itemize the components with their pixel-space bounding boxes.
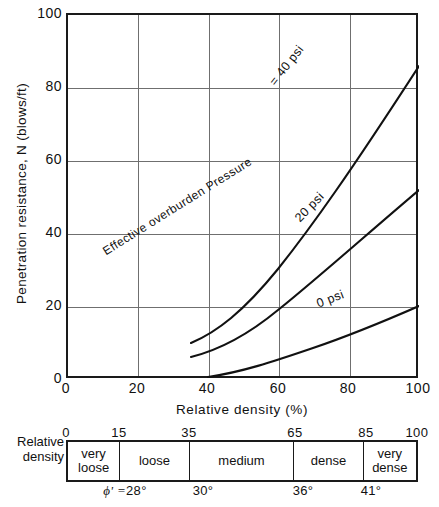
- y-axis-title: Penetration resistance, N (blows/ft): [14, 19, 29, 369]
- scale-tick-15: 15: [96, 425, 142, 440]
- density-cell-very-dense-line2: dense: [372, 461, 407, 475]
- x-axis-ticks: 0 20 40 60 80 100: [0, 381, 439, 403]
- phi-value-36: 36°: [268, 483, 338, 498]
- x-tick-0: 0: [36, 381, 96, 395]
- scale-tick-35: 35: [166, 425, 212, 440]
- density-classification-block: Relative density 0 15 35 65 85 100 very …: [0, 425, 439, 497]
- density-cell-very-loose: very loose: [68, 442, 120, 480]
- density-cell-loose-label: loose: [139, 454, 170, 468]
- density-cell-very-dense-line1: very: [372, 447, 407, 461]
- x-tick-40: 40: [177, 381, 237, 395]
- phi-value-41: 41°: [336, 483, 406, 498]
- density-cell-medium: medium: [190, 442, 294, 480]
- x-axis-title: Relative density (%): [66, 402, 418, 417]
- x-tick-100: 100: [388, 381, 439, 395]
- phi-value-30: 30°: [168, 483, 238, 498]
- phi-symbol-label: ϕ' =: [103, 483, 126, 498]
- density-cell-medium-label: medium: [218, 454, 264, 468]
- curve-0psi: [208, 306, 419, 377]
- friction-angle-row: ϕ' =28° 30° 36° 41°: [0, 483, 439, 499]
- scale-tick-65: 65: [272, 425, 318, 440]
- x-tick-60: 60: [248, 381, 308, 395]
- density-cell-very-loose-line1: very: [78, 447, 109, 461]
- density-row-label-line2: density: [2, 449, 64, 464]
- scale-tick-0: 0: [43, 425, 89, 440]
- scale-tick-100: 100: [394, 425, 439, 440]
- curves-svg: [67, 14, 419, 379]
- plot-area: [66, 13, 418, 378]
- density-cell-very-dense: very dense: [364, 442, 416, 480]
- y-axis-ticks: 100 80 60 40 20 0: [0, 0, 62, 391]
- phi-value-28: ϕ' =28°: [90, 483, 160, 499]
- scale-tick-85: 85: [343, 425, 389, 440]
- density-cell-loose: loose: [120, 442, 190, 480]
- density-cell-dense: dense: [294, 442, 364, 480]
- density-cell-dense-label: dense: [311, 454, 346, 468]
- x-tick-20: 20: [107, 381, 167, 395]
- density-table: very loose loose medium dense very dense: [66, 440, 418, 482]
- density-cell-very-loose-line2: loose: [78, 461, 109, 475]
- phi-value-28-text: 28°: [126, 483, 147, 498]
- x-tick-80: 80: [318, 381, 378, 395]
- density-scale-ticks: 0 15 35 65 85 100: [0, 425, 439, 440]
- figure-root: 100 80 60 40 20 0 Penetration resistance…: [0, 0, 439, 507]
